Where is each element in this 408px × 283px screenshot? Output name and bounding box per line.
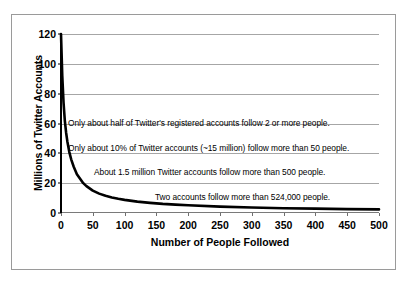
x-tick-label: 50	[87, 219, 99, 231]
x-tick-mark	[347, 213, 348, 216]
x-tick-mark	[125, 213, 126, 216]
annotation-text: Only about 10% of Twitter accounts (~15 …	[68, 143, 349, 153]
chart-frame: Millions of Twitter Accounts 120 100 80 …	[11, 14, 396, 270]
x-tick-mark	[156, 213, 157, 216]
x-tick-label: 200	[179, 219, 197, 231]
x-tick-label: 400	[307, 219, 325, 231]
y-tick-label: 120	[38, 28, 56, 40]
x-tick-mark	[61, 213, 62, 216]
annotation-text: About 1.5 million Twitter accounts follo…	[94, 167, 325, 177]
annotation-text: Only about half of Twitter's registered …	[68, 118, 330, 128]
y-tick-label: 40	[44, 147, 56, 159]
y-tick-label: 20	[44, 177, 56, 189]
x-tick-label: 450	[338, 219, 356, 231]
x-tick-label: 300	[243, 219, 261, 231]
x-tick-mark	[252, 213, 253, 216]
y-tick-label: 0	[50, 207, 56, 219]
annotation-text: Two accounts follow more than 524,000 pe…	[155, 192, 330, 202]
x-tick-mark	[379, 213, 380, 216]
x-tick-label: 150	[148, 219, 166, 231]
x-tick-label: 250	[211, 219, 229, 231]
x-tick-mark	[284, 213, 285, 216]
y-tick-label: 60	[44, 118, 56, 130]
x-tick-label: 0	[58, 219, 64, 231]
y-tick-label: 100	[38, 58, 56, 70]
plot-inner: 120 100 80 60 40 20 0 0 50 100 150 200	[61, 34, 379, 213]
y-tick-label: 80	[44, 88, 56, 100]
x-axis-title: Number of People Followed	[61, 236, 379, 248]
x-tick-mark	[315, 213, 316, 216]
x-tick-label: 500	[370, 219, 388, 231]
x-tick-label: 350	[275, 219, 293, 231]
x-tick-mark	[220, 213, 221, 216]
x-tick-label: 100	[116, 219, 134, 231]
x-tick-mark	[188, 213, 189, 216]
x-tick-mark	[93, 213, 94, 216]
plot-area: 120 100 80 60 40 20 0 0 50 100 150 200	[61, 34, 379, 213]
